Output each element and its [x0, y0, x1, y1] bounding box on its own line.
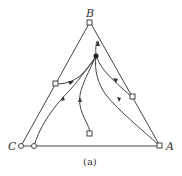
curve-ab-to-node	[96, 56, 132, 97]
node-interior-square	[87, 131, 92, 136]
ternary-diagram: B C A (a)	[0, 0, 182, 176]
node-saddle-dot	[94, 54, 99, 59]
label-a: A	[165, 140, 174, 153]
node-bc-edge-square	[53, 81, 58, 86]
arrow-icon	[78, 97, 82, 102]
node-b-square	[87, 20, 92, 25]
arrow-icon	[117, 97, 121, 102]
edge-ab	[90, 22, 160, 146]
node-c-circle	[19, 144, 24, 149]
label-b: B	[85, 7, 94, 20]
node-a-square	[157, 143, 162, 148]
caption: (a)	[83, 156, 97, 167]
label-c: C	[8, 140, 17, 153]
node-ac-edge-circle	[32, 144, 37, 149]
arrow-icon	[68, 81, 74, 85]
node-ab-edge-square	[130, 94, 135, 99]
curve-a-to-node	[95, 56, 160, 146]
